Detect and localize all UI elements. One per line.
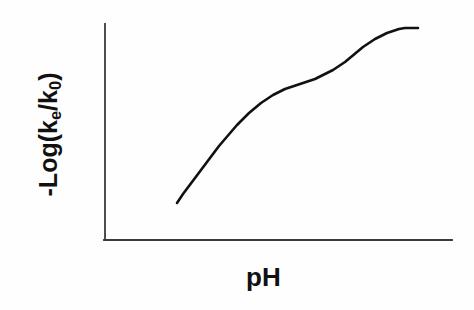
y-axis-label-subscript-zero: 0: [46, 81, 64, 90]
y-axis-label-mid: /k: [34, 90, 62, 111]
y-axis-label-subscript-e: e: [46, 111, 64, 120]
y-axis-label-container: -Log(ke/k0): [0, 0, 110, 270]
y-axis-label: -Log(ke/k0): [34, 35, 63, 235]
x-axis-label: pH: [246, 262, 281, 293]
y-axis-label-prefix: -Log(k: [34, 120, 62, 196]
data-curve: [177, 28, 418, 203]
ph-rate-profile-figure: -Log(ke/k0) pH: [0, 0, 474, 310]
